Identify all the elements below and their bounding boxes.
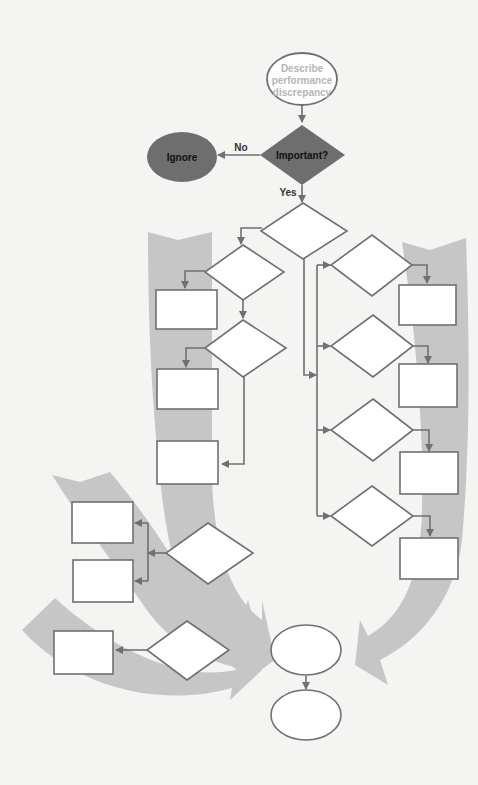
- start-line-1: Describe: [281, 63, 324, 74]
- edge-label-yes: Yes: [279, 187, 297, 198]
- ignore-label: Ignore: [167, 152, 198, 163]
- process-right-1: [399, 285, 456, 325]
- flowchart-canvas: Describe performance discrepancy Importa…: [0, 0, 478, 785]
- start-line-3: discrepancy: [273, 87, 332, 98]
- end-ellipse-2: [271, 690, 341, 740]
- decision-important-label: Important?: [276, 150, 328, 161]
- end-ellipse-1: [271, 625, 341, 675]
- process-left-1: [156, 290, 217, 329]
- process-right-2: [399, 364, 457, 407]
- process-bottom-left: [54, 631, 113, 674]
- start-node-describe-discrepancy: Describe performance discrepancy: [267, 53, 337, 105]
- process-right-4: [400, 538, 458, 579]
- process-right-3: [400, 452, 458, 494]
- decision-top: [261, 203, 347, 259]
- ignore-node: Ignore: [147, 132, 217, 182]
- process-left-2: [157, 369, 218, 409]
- process-lower-left-1: [72, 502, 133, 543]
- start-line-2: performance: [272, 75, 333, 86]
- decision-important: Important?: [260, 125, 345, 185]
- process-lower-left-2: [73, 560, 133, 602]
- process-left-3: [157, 441, 218, 484]
- decision-right-4: [331, 486, 413, 546]
- edge-label-no: No: [234, 142, 247, 153]
